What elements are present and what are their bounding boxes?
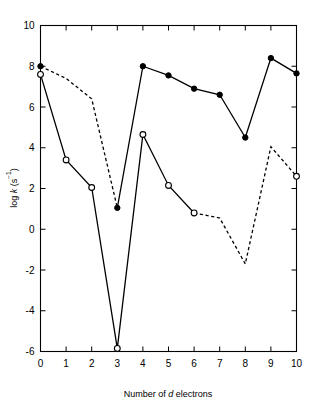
chart-figure: 012345678910 1086420-2-4-6 Number of d e… bbox=[0, 0, 320, 411]
svg-text:Number of d electrons: Number of d electrons bbox=[124, 389, 213, 399]
y-tick-label: -2 bbox=[26, 265, 35, 276]
data-point-filled-circle bbox=[140, 64, 145, 69]
x-tick-label: 3 bbox=[115, 358, 121, 369]
x-tick-label: 4 bbox=[140, 358, 146, 369]
xlabel-suffix: electrons bbox=[173, 389, 213, 399]
y-tick-label: 2 bbox=[29, 183, 35, 194]
data-point-open-circle bbox=[191, 210, 197, 216]
data-point-filled-circle bbox=[268, 55, 273, 60]
ylabel-close: ) bbox=[9, 168, 19, 171]
x-tick-label: 5 bbox=[166, 358, 172, 369]
x-tick-label: 10 bbox=[291, 358, 303, 369]
data-point-open-circle bbox=[140, 132, 146, 138]
x-tick-label: 8 bbox=[243, 358, 249, 369]
y-tick-label: 6 bbox=[29, 102, 35, 113]
figure-background bbox=[0, 0, 320, 411]
data-point-open-circle bbox=[166, 183, 172, 189]
x-tick-label: 7 bbox=[217, 358, 223, 369]
x-tick-label: 9 bbox=[268, 358, 274, 369]
data-point-open-circle bbox=[294, 173, 300, 179]
data-point-open-circle bbox=[63, 157, 69, 163]
x-tick-label: 6 bbox=[191, 358, 197, 369]
x-axis-label: Number of d electrons bbox=[124, 389, 213, 399]
data-point-open-circle bbox=[114, 346, 120, 352]
data-point-filled-circle bbox=[166, 73, 171, 78]
data-point-filled-circle bbox=[217, 92, 222, 97]
y-tick-label: -4 bbox=[26, 305, 35, 316]
y-tick-label: 10 bbox=[23, 20, 35, 31]
data-point-open-circle bbox=[89, 185, 95, 191]
y-tick-label: 4 bbox=[29, 142, 35, 153]
y-tick-label: 0 bbox=[29, 224, 35, 235]
y-tick-label: 8 bbox=[29, 61, 35, 72]
y-tick-label: -6 bbox=[26, 346, 35, 357]
data-point-filled-circle bbox=[294, 71, 299, 76]
x-tick-label: 2 bbox=[89, 358, 95, 369]
data-point-filled-circle bbox=[243, 135, 248, 140]
data-point-filled-circle bbox=[38, 64, 43, 69]
data-point-open-circle bbox=[38, 72, 44, 78]
ylabel-prefix: log bbox=[9, 193, 19, 208]
data-point-filled-circle bbox=[191, 86, 196, 91]
x-tick-label: 0 bbox=[38, 358, 44, 369]
ylabel-suffix: (s bbox=[9, 178, 19, 188]
data-point-filled-circle bbox=[115, 205, 120, 210]
x-tick-label: 1 bbox=[63, 358, 69, 369]
xlabel-prefix: Number of bbox=[124, 389, 169, 399]
